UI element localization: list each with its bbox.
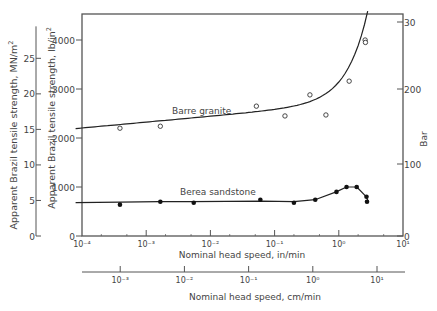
sandstone-point bbox=[118, 202, 123, 207]
sandstone-point bbox=[334, 190, 339, 195]
y-axis-label-bar: Bar bbox=[419, 131, 429, 147]
granite-point bbox=[308, 93, 312, 97]
x-tick-label: 10⁻² bbox=[202, 240, 220, 249]
granite-point bbox=[254, 104, 258, 108]
x2-tick-label: 10⁻³ bbox=[111, 276, 129, 285]
x-tick-label: 10¹ bbox=[396, 240, 409, 249]
x2-tick-label: 10⁰ bbox=[306, 276, 319, 285]
y-axis-label-lb: Apparent Brazil tensile strength, lb/in2 bbox=[45, 27, 57, 209]
sandstone-label: Berea sandstone bbox=[180, 187, 256, 197]
sandstone-point bbox=[158, 199, 163, 204]
y-axis-label-mn: Apparent Brazil tensile strength, MN/m2 bbox=[7, 41, 19, 230]
granite-label: Barre granite bbox=[172, 106, 232, 116]
x-tick-label: 10⁻³ bbox=[137, 240, 155, 249]
y-tick-label-bar: 100 bbox=[404, 160, 421, 170]
x-axis-label: Nominal head speed, in/min bbox=[179, 250, 306, 260]
y-tick-label-mn: 0 bbox=[29, 232, 35, 242]
sandstone-point bbox=[292, 200, 297, 205]
y-tick-label-bar: 30 bbox=[404, 18, 416, 28]
y-tick-label-bar: 200 bbox=[404, 85, 421, 95]
sandstone-point bbox=[344, 185, 349, 190]
granite-point bbox=[283, 114, 287, 118]
sandstone-point bbox=[365, 199, 370, 204]
x-tick-label: 10⁻⁴ bbox=[73, 240, 91, 249]
sandstone-point bbox=[258, 197, 263, 202]
x2-tick-label: 10⁻¹ bbox=[240, 276, 258, 285]
y-tick-label-mn: 10 bbox=[24, 160, 36, 170]
x2-tick-label: 10¹ bbox=[370, 276, 383, 285]
sandstone-point bbox=[364, 195, 369, 200]
x-tick-label: 10⁻¹ bbox=[266, 240, 284, 249]
granite-point bbox=[347, 79, 351, 83]
plot-frame bbox=[82, 14, 403, 236]
y-tick-label-mn: 20 bbox=[24, 89, 36, 99]
granite-point bbox=[363, 40, 367, 44]
granite-point bbox=[324, 113, 328, 117]
x2-axis-label: Nominal head speed, cm/min bbox=[189, 292, 321, 302]
x2-tick-label: 10⁻² bbox=[176, 276, 194, 285]
sandstone-point bbox=[313, 197, 318, 202]
y-tick-label-mn: 15 bbox=[24, 125, 35, 135]
y-tick-label-mn: 25 bbox=[24, 54, 35, 64]
sandstone-point bbox=[191, 200, 196, 205]
y-tick-label-mn: 5 bbox=[29, 196, 35, 206]
sandstone-point bbox=[354, 185, 359, 190]
granite-point bbox=[118, 126, 122, 130]
x-tick-label: 10⁰ bbox=[332, 240, 345, 249]
granite-point bbox=[158, 124, 162, 128]
chart: 01000200030004000051015202501002003010⁻⁴… bbox=[0, 0, 437, 311]
